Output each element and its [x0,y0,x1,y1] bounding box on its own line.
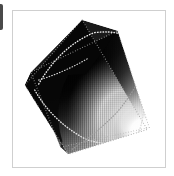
screenshot-root [0,0,174,176]
clipped-edge-element [0,4,3,30]
figure-frame[interactable] [12,10,166,168]
surface-plot-canvas[interactable] [13,11,165,167]
